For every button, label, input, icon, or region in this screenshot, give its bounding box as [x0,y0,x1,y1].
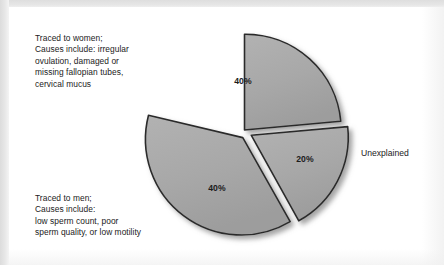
pie-label-men: 40% [208,183,226,193]
page-edge-shadow-left [0,0,9,265]
figure-page: 40% 20% 40% Traced to women; Causes incl… [0,0,444,265]
pie-slice-women [245,34,341,130]
caption-traced-to-men: Traced to men; Causes include: low sperm… [35,193,141,239]
pie-label-unexplained: 20% [296,154,314,164]
pie-label-women: 40% [234,76,252,86]
pie-shadow-layer [145,34,348,235]
figure-card: 40% 20% 40% Traced to women; Causes incl… [9,7,444,265]
caption-unexplained: Unexplained [361,148,409,159]
caption-traced-to-women: Traced to women; Causes include: irregul… [35,33,129,90]
